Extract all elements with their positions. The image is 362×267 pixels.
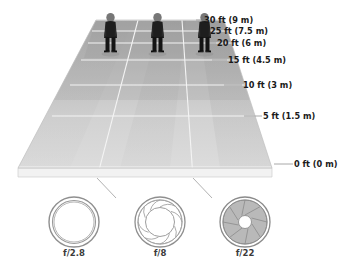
aperture-f22-icon bbox=[220, 197, 270, 247]
diagram-graphics bbox=[0, 0, 362, 267]
aperture-label-f8: f/8 bbox=[130, 249, 190, 258]
distance-label-20ft: 20 ft (6 m) bbox=[217, 39, 266, 47]
aperture-f28-icon bbox=[49, 197, 99, 247]
distance-label-25ft: 25 ft (7.5 m) bbox=[210, 27, 268, 35]
ground-slab-edge bbox=[18, 168, 272, 177]
distance-label-15ft: 15 ft (4.5 m) bbox=[228, 56, 286, 64]
aperture-f8-icon bbox=[135, 197, 185, 247]
aperture-label-f22: f/22 bbox=[215, 249, 275, 258]
distance-label-10ft: 10 ft (3 m) bbox=[243, 81, 292, 89]
distance-label-5ft: 5 ft (1.5 m) bbox=[263, 112, 315, 120]
diagram-canvas: 30 ft (9 m) 25 ft (7.5 m) 20 ft (6 m) 15… bbox=[0, 0, 362, 267]
aperture-label-f28: f/2.8 bbox=[44, 249, 104, 258]
aperture-connector-lines bbox=[97, 178, 212, 198]
distance-label-0ft: 0 ft (0 m) bbox=[294, 160, 337, 168]
distance-label-30ft: 30 ft (9 m) bbox=[204, 16, 253, 24]
